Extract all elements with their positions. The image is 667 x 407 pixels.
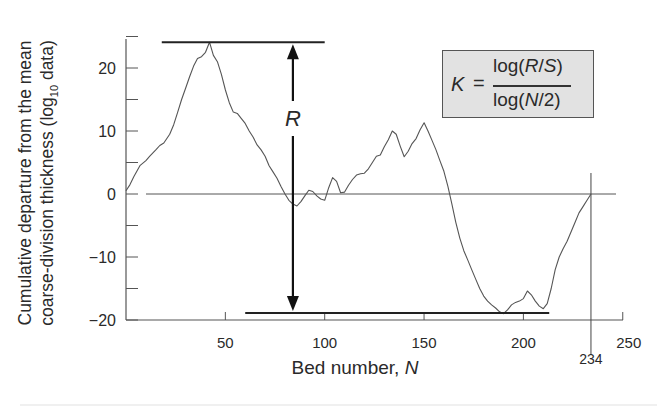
y-tick-label: 20 bbox=[98, 60, 116, 77]
footer-divider bbox=[20, 404, 657, 406]
x-tick-label: 150 bbox=[412, 334, 437, 351]
x-tick-label: 250 bbox=[616, 334, 641, 351]
y-tick-label: −20 bbox=[89, 312, 116, 329]
formula-box: K = log(R/S) log(N/2) bbox=[442, 50, 594, 118]
y-axis-label-line2: coarse-division thickness (log10 data) bbox=[37, 40, 60, 326]
x-tick-label: 200 bbox=[511, 334, 536, 351]
formula-equals: = bbox=[473, 72, 485, 95]
formula-numerator: log(R/S) bbox=[493, 55, 563, 77]
x-tick-label: 50 bbox=[217, 334, 234, 351]
x-axis-ticks: 50100150200250 bbox=[217, 312, 641, 351]
y-axis-label: Cumulative departure from the mean coars… bbox=[15, 40, 60, 326]
formula-fraction-bar bbox=[493, 85, 571, 87]
formula-lhs: K bbox=[451, 73, 464, 96]
y-tick-label: −10 bbox=[89, 249, 116, 266]
arrow-down-icon bbox=[287, 296, 299, 311]
x-tick-label: 100 bbox=[312, 334, 337, 351]
x-axis-label: Bed number, N bbox=[292, 357, 419, 378]
y-axis-label-line1: Cumulative departure from the mean bbox=[15, 41, 35, 326]
arrow-up-icon bbox=[287, 44, 299, 59]
y-tick-label: 10 bbox=[98, 123, 116, 140]
range-label: R bbox=[285, 106, 301, 131]
y-tick-label: 0 bbox=[107, 186, 116, 203]
end-marker-label: 234 bbox=[579, 351, 603, 367]
formula-denominator: log(N/2) bbox=[493, 89, 561, 111]
chart: −20−1001020 50100150200250 R Bed number,… bbox=[0, 0, 667, 407]
